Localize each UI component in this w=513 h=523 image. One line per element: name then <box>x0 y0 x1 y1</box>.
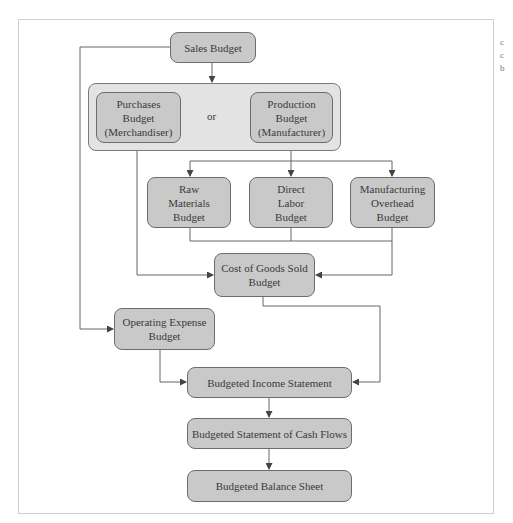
budgeted-balance-sheet-node: Budgeted Balance Sheet <box>187 470 352 502</box>
cutoff-side-text: c c b <box>500 36 505 75</box>
purchases-budget-node: Purchases Budget (Merchandiser) <box>96 92 181 143</box>
side-text-line: b <box>500 62 505 75</box>
cogs-budget-node: Cost of Goods Sold Budget <box>214 253 315 297</box>
raw-materials-budget-node: Raw Materials Budget <box>147 177 231 228</box>
side-text-line: c <box>500 36 505 49</box>
sales-budget-node: Sales Budget <box>170 32 256 63</box>
operating-expense-budget-node: Operating Expense Budget <box>114 308 215 350</box>
budgeted-cash-flows-node: Budgeted Statement of Cash Flows <box>187 418 352 449</box>
side-text-line: c <box>500 49 505 62</box>
production-budget-node: Production Budget (Manufacturer) <box>250 92 333 143</box>
budgeted-income-statement-node: Budgeted Income Statement <box>187 367 352 398</box>
manufacturing-overhead-budget-node: Manufacturing Overhead Budget <box>350 177 435 228</box>
direct-labor-budget-node: Direct Labor Budget <box>249 177 333 228</box>
or-label: or <box>207 110 216 122</box>
